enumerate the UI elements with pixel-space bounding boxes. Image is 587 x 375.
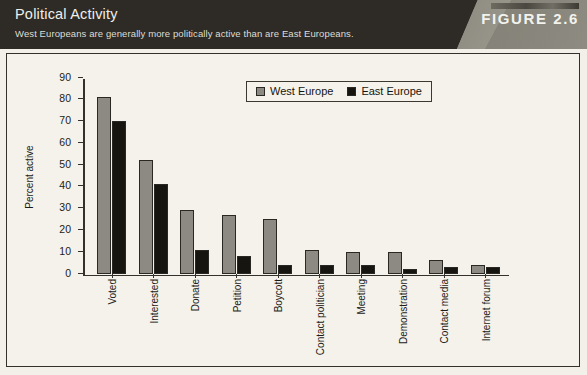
bar-east-europe (486, 267, 500, 274)
y-axis-tick: 70 (78, 120, 83, 121)
x-axis-tick (485, 274, 486, 278)
legend-swatch-east-icon (347, 87, 356, 96)
y-axis-line (83, 79, 85, 276)
y-axis-tick-label: 10 (59, 245, 71, 257)
y-axis-tick-label: 40 (59, 179, 71, 191)
y-axis-tick: 90 (78, 77, 83, 78)
y-axis-tick: 30 (78, 207, 83, 208)
legend-entry-east: East Europe (347, 85, 422, 97)
bar-east-europe (444, 267, 458, 274)
x-axis-tick-label: Boycott (273, 279, 284, 312)
y-axis-tick: 0 (78, 273, 83, 274)
y-axis-tick: 10 (78, 251, 83, 252)
page-subtitle: West Europeans are generally more politi… (15, 28, 354, 39)
bar-west-europe (97, 97, 111, 273)
bar-west-europe (471, 265, 485, 274)
x-axis-tick-label: Interested (148, 279, 159, 323)
chart-frame: Percent active 0102030405060708090 Voted… (6, 53, 580, 367)
x-axis-tick-label: Contact politician (314, 279, 325, 355)
bar-west-europe (222, 215, 236, 274)
x-axis-tick (278, 274, 279, 278)
x-axis-tick-label: Meeting (356, 279, 367, 315)
bar-east-europe (361, 265, 375, 274)
y-axis-tick-label: 30 (59, 201, 71, 213)
legend-entry-west: West Europe (256, 85, 333, 97)
bar-east-europe (278, 265, 292, 274)
bar-east-europe (403, 269, 417, 273)
chart-legend: West Europe East Europe (246, 81, 432, 102)
y-axis-tick-label: 90 (59, 71, 71, 83)
plot-area: Percent active 0102030405060708090 Voted… (83, 79, 507, 275)
bar-east-europe (112, 121, 126, 273)
page-title: Political Activity (15, 6, 118, 22)
bar-east-europe (320, 265, 334, 274)
legend-swatch-west-icon (256, 87, 265, 96)
x-axis-tick (195, 274, 196, 278)
x-axis-tick (153, 274, 154, 278)
x-axis-tick (444, 274, 445, 278)
figure-number-label: FIGURE 2.6 (481, 10, 579, 27)
bar-west-europe (263, 219, 277, 273)
x-axis-tick-label: Petition (231, 279, 242, 312)
x-axis-tick (112, 274, 113, 278)
figure-card: Political Activity West Europeans are ge… (0, 0, 587, 375)
y-axis-tick-label: 60 (59, 136, 71, 148)
x-axis-tick (361, 274, 362, 278)
y-axis-tick-label: 0 (65, 267, 71, 279)
bar-east-europe (154, 184, 168, 273)
y-axis-tick-label: 70 (59, 114, 71, 126)
y-axis-tick: 40 (78, 185, 83, 186)
bar-west-europe (180, 210, 194, 273)
y-axis-tick: 20 (78, 229, 83, 230)
bar-west-europe (139, 160, 153, 273)
y-axis-tick-label: 50 (59, 158, 71, 170)
y-axis-tick-label: 20 (59, 223, 71, 235)
x-axis-tick (402, 274, 403, 278)
y-axis-tick: 50 (78, 164, 83, 165)
legend-label-east: East Europe (361, 85, 422, 97)
x-axis-tick-label: Donate (190, 279, 201, 311)
x-axis-tick (319, 274, 320, 278)
bar-east-europe (195, 250, 209, 274)
bar-west-europe (305, 250, 319, 274)
x-axis-tick-label: Contact media (439, 279, 450, 343)
bar-west-europe (388, 252, 402, 274)
figure-header: Political Activity West Europeans are ge… (0, 0, 587, 49)
x-axis-tick-label: Internet forum (480, 279, 491, 341)
y-axis-tick: 80 (78, 98, 83, 99)
x-axis-tick (236, 274, 237, 278)
x-axis-tick-label: Demonstration (397, 279, 408, 344)
bar-west-europe (429, 260, 443, 273)
x-axis-line (83, 275, 509, 277)
legend-label-west: West Europe (270, 85, 333, 97)
figure-badge-strip (491, 3, 579, 9)
y-axis-title: Percent active (24, 145, 35, 208)
x-axis-tick-label: Voted (107, 279, 118, 305)
y-axis-tick-label: 80 (59, 92, 71, 104)
bar-west-europe (346, 252, 360, 274)
y-axis-tick: 60 (78, 142, 83, 143)
bar-east-europe (237, 256, 251, 273)
